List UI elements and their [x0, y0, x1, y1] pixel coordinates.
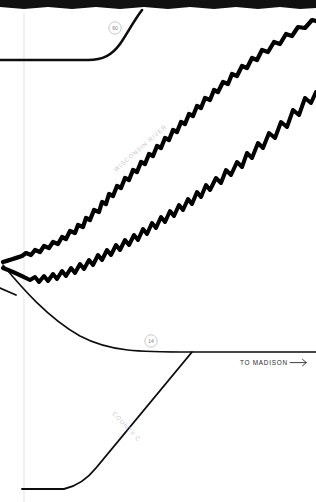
scan-edge-band [0, 0, 316, 9]
county-road-label: COUNTY C [111, 411, 142, 443]
road-highway-60[interactable] [0, 10, 142, 60]
shield-number-14: 14 [148, 338, 154, 344]
shield-number-60: 60 [112, 25, 118, 31]
road-spur-stub[interactable] [0, 288, 16, 295]
route-shield-60[interactable]: 60 [109, 22, 121, 34]
river-south-bank[interactable] [3, 92, 316, 282]
to-madison-label: TO MADISON [240, 359, 288, 366]
river-north-bank[interactable] [3, 20, 316, 262]
route-shield-14[interactable]: 14 [145, 335, 157, 347]
map-canvas[interactable]: 60 14 WISCONSIN RIVER COUNTY C TO MADISO… [0, 0, 316, 502]
road-county-c[interactable] [22, 352, 192, 489]
to-madison-arrow-icon [290, 359, 306, 365]
map-drawing[interactable]: 60 14 WISCONSIN RIVER COUNTY C TO MADISO… [0, 0, 316, 502]
